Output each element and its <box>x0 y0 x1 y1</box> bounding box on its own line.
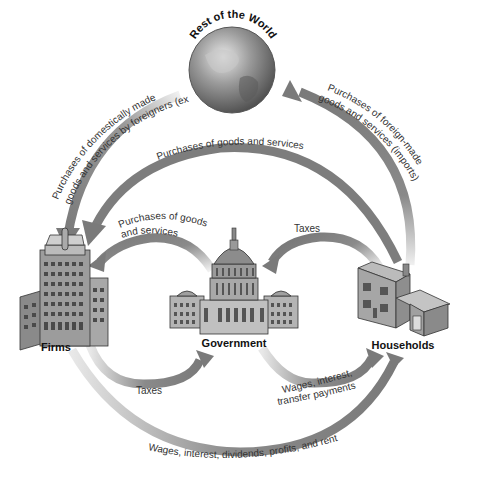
firms-node: Firms <box>20 228 108 353</box>
circular-flow-diagram: Rest of the World <box>0 0 483 501</box>
firms-label: Firms <box>41 341 71 353</box>
firm-taxes-arrow <box>90 345 214 384</box>
firm-taxes-label: Taxes <box>136 385 162 396</box>
factor-payments-arrow <box>72 350 404 452</box>
globe-icon <box>189 27 275 113</box>
households-node: Households <box>358 262 450 351</box>
rest-of-world-node: Rest of the World <box>187 8 279 113</box>
government-purchases-arrow <box>88 238 212 272</box>
households-label: Households <box>372 339 435 351</box>
government-label: Government <box>202 337 267 349</box>
household-taxes-label: Taxes <box>294 223 320 234</box>
house-icon <box>358 262 450 336</box>
office-building-icon <box>20 228 108 350</box>
exports-label-line2: goods and services by foreigners (export… <box>0 0 190 206</box>
